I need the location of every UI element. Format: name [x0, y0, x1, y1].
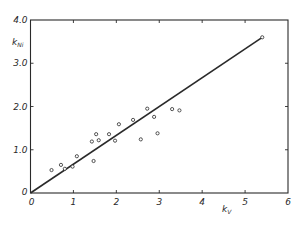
- data-point: [131, 118, 134, 121]
- scatter-chart: 0123456 01.02.03.04.0 kNi kV: [0, 0, 303, 225]
- data-point: [97, 139, 100, 142]
- data-point: [50, 168, 53, 171]
- data-point: [117, 123, 120, 126]
- data-point: [75, 155, 78, 158]
- x-tick-label: 3: [156, 197, 162, 207]
- data-point: [92, 159, 95, 162]
- data-point: [59, 163, 62, 166]
- x-tick-label: 2: [113, 197, 119, 207]
- x-tick-label: 5: [242, 197, 248, 207]
- data-point: [107, 133, 110, 136]
- x-tick-labels: 0123456: [29, 197, 292, 207]
- data-point: [178, 109, 181, 112]
- data-point: [139, 138, 142, 141]
- y-tick-label: 3.0: [13, 58, 28, 68]
- data-point: [171, 107, 174, 110]
- data-point: [113, 139, 116, 142]
- x-tick-label: 0: [29, 197, 35, 207]
- data-points: [50, 36, 264, 172]
- y-axis-label: kNi: [12, 37, 24, 48]
- data-point: [71, 165, 74, 168]
- y-tick-label: 4.0: [13, 15, 28, 25]
- data-point: [146, 107, 149, 110]
- data-point: [156, 132, 159, 135]
- x-tick-label: 6: [285, 197, 291, 207]
- data-point: [261, 36, 264, 39]
- x-tick-label: 1: [71, 197, 77, 207]
- x-tick-label: 4: [199, 197, 205, 207]
- data-point: [90, 140, 93, 143]
- data-point: [63, 167, 66, 170]
- y-tick-label: 0: [22, 187, 28, 197]
- data-point: [153, 115, 156, 118]
- x-axis-label: kV: [222, 204, 232, 215]
- y-tick-label: 1.0: [13, 145, 28, 155]
- y-tick-label: 2.0: [13, 102, 28, 112]
- data-point: [95, 133, 98, 136]
